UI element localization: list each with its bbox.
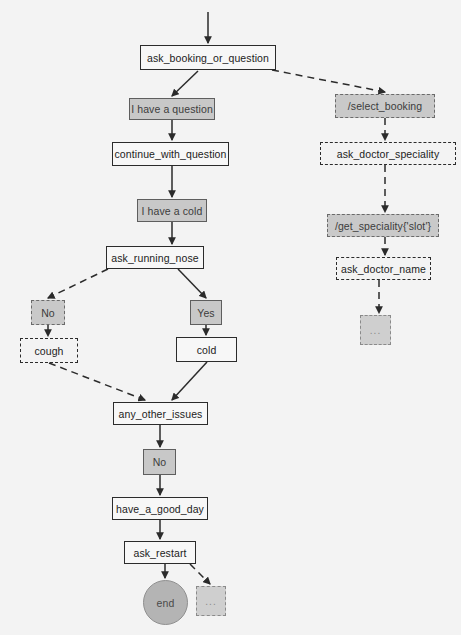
node-get-speciality-slot[interactable]: /get_speciality{'slot'} — [327, 214, 439, 237]
node-label: /select_booking — [348, 100, 422, 112]
node-label: No — [153, 456, 167, 468]
edge-ask-booking-to-select-booking — [272, 70, 385, 92]
node-any-other-issues[interactable]: any_other_issues — [113, 402, 208, 425]
edge-running-nose-to-no-left — [48, 269, 108, 298]
edge-running-nose-to-yes — [178, 269, 206, 298]
node-yes[interactable]: Yes — [190, 300, 222, 325]
node-label: cold — [197, 344, 217, 356]
node-no-middle[interactable]: No — [143, 449, 176, 475]
node-label: have_a_good_day — [116, 503, 204, 515]
node-label: any_other_issues — [119, 408, 203, 420]
node-label: I have a cold — [142, 205, 203, 217]
edge-cold-to-any-other-issues — [172, 362, 207, 400]
node-end-ellipsis[interactable]: ... — [196, 586, 226, 616]
node-i-have-a-cold[interactable]: I have a cold — [137, 199, 207, 222]
node-label: end — [157, 597, 175, 609]
node-label: cough — [34, 345, 63, 357]
edge-cough-to-any-other-issues — [49, 363, 145, 400]
node-ask-restart[interactable]: ask_restart — [124, 541, 196, 564]
edge-ask-booking-to-question — [172, 71, 198, 96]
node-select-booking[interactable]: /select_booking — [335, 94, 435, 118]
node-label: ... — [205, 596, 216, 607]
node-ask-doctor-name[interactable]: ask_doctor_name — [336, 257, 431, 280]
node-label: Yes — [197, 307, 214, 319]
node-ask-running-nose[interactable]: ask_running_nose — [106, 246, 204, 269]
node-no-left[interactable]: No — [31, 300, 65, 325]
node-label: ask_restart — [133, 547, 186, 559]
node-label: I have a question — [131, 103, 213, 115]
node-cough[interactable]: cough — [20, 338, 78, 363]
node-ask-booking-or-question[interactable]: ask_booking_or_question — [140, 45, 276, 70]
edge-ask-restart-to-ellipsis — [190, 564, 210, 584]
node-label: ask_doctor_speciality — [337, 148, 440, 160]
node-right-ellipsis[interactable]: ... — [360, 315, 391, 345]
node-label: ask_booking_or_question — [147, 52, 269, 64]
node-label: No — [41, 307, 55, 319]
node-label: ... — [370, 325, 381, 336]
node-continue-with-question[interactable]: continue_with_question — [112, 142, 229, 166]
node-cold[interactable]: cold — [176, 337, 237, 362]
node-label: continue_with_question — [115, 148, 227, 160]
node-end[interactable]: end — [143, 580, 188, 625]
diagram-canvas: ask_booking_or_question I have a questio… — [0, 0, 461, 635]
node-label: ask_doctor_name — [341, 263, 426, 275]
node-have-a-good-day[interactable]: have_a_good_day — [112, 497, 208, 520]
node-i-have-a-question[interactable]: I have a question — [129, 98, 215, 120]
node-label: /get_speciality{'slot'} — [335, 220, 431, 232]
node-label: ask_running_nose — [111, 252, 198, 264]
node-ask-doctor-speciality[interactable]: ask_doctor_speciality — [320, 142, 456, 165]
